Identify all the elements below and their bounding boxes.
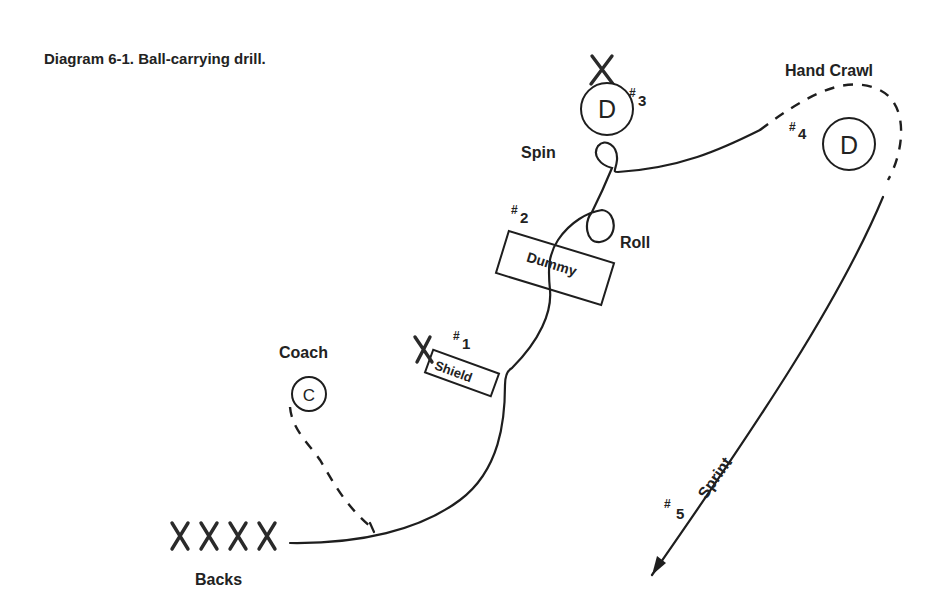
back-4-x-icon	[259, 523, 275, 549]
backs-label: Backs	[195, 571, 242, 588]
station-1-number: 1	[462, 335, 470, 352]
station-5-number: 5	[676, 505, 684, 522]
defender-3-x-icon	[591, 56, 613, 84]
coach-label: Coach	[279, 344, 328, 361]
ball-carrying-drill-diagram: Diagram 6-1. Ball-carrying drill. D # 3 …	[0, 0, 946, 608]
roll-label: Roll	[620, 234, 650, 251]
defender-4: D # 4	[789, 118, 875, 170]
station-4-hash: #	[789, 120, 796, 134]
defender-4-symbol: D	[840, 131, 858, 159]
station-2-hash: #	[511, 203, 518, 217]
diagram-caption: Diagram 6-1. Ball-carrying drill.	[44, 50, 266, 67]
shield-holder-x-icon	[415, 337, 432, 362]
sprint-path	[652, 197, 883, 575]
coach-symbol: C	[303, 386, 315, 405]
ball-carrier-path	[290, 130, 760, 543]
back-2-x-icon	[201, 523, 217, 549]
coach: Coach C	[279, 344, 328, 411]
station-3-number: 3	[638, 92, 646, 109]
station-3-hash: #	[629, 86, 636, 100]
station-2-number: 2	[520, 209, 528, 226]
back-3-x-icon	[230, 523, 246, 549]
backs: Backs	[172, 523, 275, 588]
station-4-number: 4	[798, 125, 807, 142]
defender-3-symbol: D	[598, 95, 616, 123]
spin-label: Spin	[521, 144, 556, 161]
station-5-hash: #	[664, 497, 671, 511]
coach-pursuit-path	[290, 407, 372, 528]
hand-crawl-label: Hand Crawl	[785, 62, 873, 79]
defender-3: D # 3	[581, 56, 646, 135]
station-1-hash: #	[453, 329, 460, 343]
back-1-x-icon	[172, 523, 188, 549]
station-2-dummy: # 2 Dummy	[496, 203, 614, 305]
sprint-label: Sprint	[695, 454, 736, 502]
station-1-shield: # 1 Shield	[415, 329, 499, 396]
station-5-sprint: # 5 Sprint	[664, 454, 735, 522]
coach-path-tick	[370, 523, 374, 532]
